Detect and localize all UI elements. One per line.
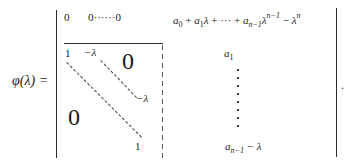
block-lower-zero: 0 — [68, 105, 80, 129]
last-col-a1: a1 — [224, 48, 234, 62]
sub-n-1: n−1 — [248, 20, 261, 29]
minus: − — [280, 14, 292, 26]
sub-1: 1 — [230, 53, 234, 62]
determinant-left-bar — [56, 10, 57, 158]
power-n-1: n−1 — [267, 11, 280, 20]
plus-dots-plus: + ··· + — [208, 14, 242, 26]
block-top-line — [64, 43, 163, 44]
block-right-dashed-line — [162, 45, 163, 158]
sub-n-1: n−1 — [231, 146, 244, 155]
block-neg-lambda-right: −λ — [136, 93, 148, 104]
block-upper-zero: 0 — [122, 49, 134, 73]
vertical-ellipsis — [237, 66, 239, 132]
terminator-period: . — [341, 79, 344, 91]
power-n: n — [296, 11, 300, 20]
block-one-bottom: 1 — [135, 141, 141, 152]
last-col-bottom-entry: an−1 − λ — [225, 141, 262, 155]
top-row-first-zero: 0 — [64, 12, 70, 23]
top-row-zeros: 0······0 — [88, 12, 121, 23]
block-neg-lambda-top: −λ — [84, 47, 96, 58]
plus: + — [183, 14, 195, 26]
last-col-top-entry: a0 + a1λ + ··· + an−1λn−1 − λn — [173, 12, 300, 29]
minus-lambda: − λ — [244, 140, 262, 152]
block-one-top: 1 — [65, 48, 71, 59]
lhs-phi-lambda: φ(λ) = — [12, 74, 48, 88]
determinant-right-bar — [336, 8, 337, 157]
lhs-text: φ(λ) = — [12, 73, 48, 88]
